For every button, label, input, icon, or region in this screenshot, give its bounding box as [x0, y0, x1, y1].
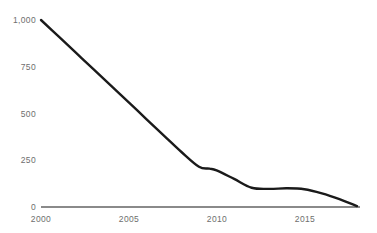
ytick-label-500: 500 — [21, 109, 36, 119]
gridlines-horizontal — [41, 20, 360, 160]
ytick-label-250: 250 — [21, 155, 36, 165]
xtick-label-2015: 2015 — [295, 214, 315, 224]
ytick-label-0: 0 — [31, 202, 36, 212]
xtick-label-2010: 2010 — [207, 214, 227, 224]
xtick-label-2005: 2005 — [119, 214, 139, 224]
xtick-label-2000: 2000 — [31, 214, 51, 224]
ytick-label-750: 750 — [21, 62, 36, 72]
chart-canvas: 1,000 750 500 250 0 2000 2005 2010 2015 — [0, 0, 377, 233]
line-chart: 1,000 750 500 250 0 2000 2005 2010 2015 — [0, 0, 377, 233]
ytick-label-1000: 1,000 — [13, 15, 36, 25]
gridlines-vertical — [129, 14, 305, 206]
